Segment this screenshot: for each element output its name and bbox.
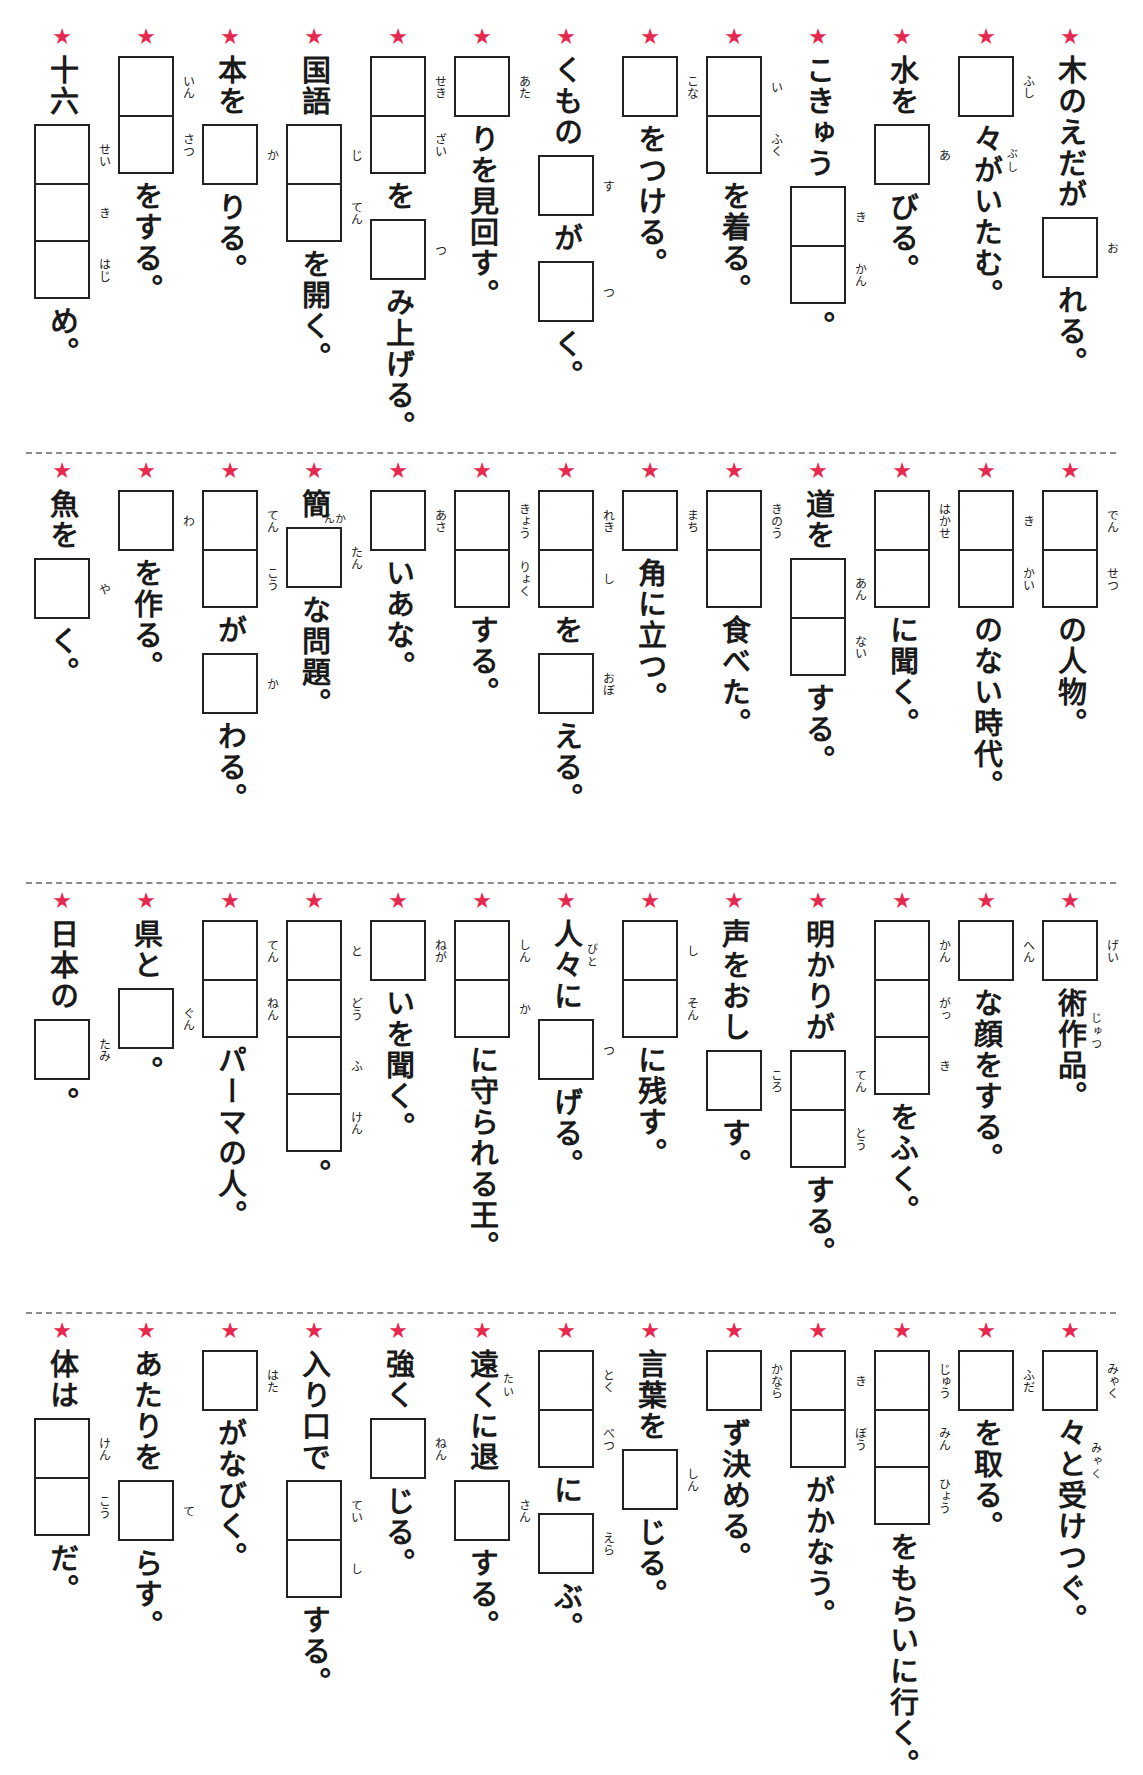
answer-cell[interactable]: つ — [540, 1021, 592, 1078]
answer-box[interactable]: いんさつ — [118, 56, 174, 174]
answer-cell[interactable]: ふだ — [960, 1352, 1012, 1409]
answer-cell[interactable]: さつ — [120, 115, 172, 172]
answer-cell[interactable]: ふ — [288, 1036, 340, 1093]
answer-cell[interactable]: せつ — [1044, 549, 1096, 606]
answer-box[interactable]: つ — [370, 219, 426, 280]
answer-cell[interactable]: す — [540, 157, 592, 214]
answer-cell[interactable]: てん — [792, 1052, 844, 1109]
answer-cell[interactable]: ふし — [960, 58, 1012, 115]
answer-cell[interactable]: てん — [288, 183, 340, 240]
answer-cell[interactable]: れき — [540, 492, 592, 549]
answer-box[interactable]: あさ — [370, 490, 426, 551]
answer-box[interactable]: へん — [958, 920, 1014, 981]
answer-box[interactable]: や — [34, 558, 90, 619]
answer-cell[interactable]: し — [540, 549, 592, 606]
answer-cell[interactable]: し — [624, 922, 676, 979]
answer-cell[interactable]: ない — [792, 617, 844, 674]
answer-box[interactable]: いふく — [706, 56, 762, 174]
answer-box[interactable]: てんこう — [202, 490, 258, 608]
answer-box[interactable]: せきざい — [370, 56, 426, 174]
answer-box[interactable]: せいきはじ — [34, 124, 90, 299]
answer-cell[interactable]: どう — [288, 979, 340, 1036]
answer-box[interactable]: かんがっき — [874, 920, 930, 1095]
answer-cell[interactable]: けん — [288, 1093, 340, 1150]
answer-cell[interactable]: い — [708, 58, 760, 115]
answer-box[interactable]: まち — [622, 490, 678, 551]
answer-box[interactable]: さん — [454, 1480, 510, 1541]
answer-box[interactable]: ころ — [706, 1050, 762, 1111]
answer-cell[interactable]: おぼ — [540, 655, 592, 712]
answer-box[interactable]: あんない — [790, 558, 846, 676]
answer-cell[interactable]: さん — [456, 1482, 508, 1539]
answer-cell[interactable]: あた — [456, 58, 508, 115]
answer-cell[interactable]: けん — [36, 1420, 88, 1477]
answer-cell[interactable]: あさ — [372, 492, 424, 549]
answer-cell[interactable]: ふく — [708, 115, 760, 172]
answer-cell[interactable]: きのう — [708, 492, 760, 549]
answer-box[interactable]: とどうふけん — [286, 920, 342, 1152]
answer-box[interactable]: しん — [622, 1449, 678, 1510]
answer-box[interactable]: とくべつ — [538, 1350, 594, 1468]
answer-cell[interactable]: つ — [372, 221, 424, 278]
answer-box[interactable]: ふだ — [958, 1350, 1014, 1411]
answer-box[interactable]: しんか — [454, 920, 510, 1038]
answer-box[interactable]: ねが — [370, 920, 426, 981]
answer-cell[interactable]: はかせ — [876, 492, 928, 549]
answer-box[interactable]: えら — [538, 1513, 594, 1574]
answer-box[interactable]: つ — [538, 1019, 594, 1080]
answer-cell[interactable]: えら — [540, 1515, 592, 1572]
answer-box[interactable]: げい — [1042, 920, 1098, 981]
answer-cell[interactable]: き — [792, 188, 844, 245]
answer-cell[interactable]: たみ — [36, 1021, 88, 1078]
answer-box[interactable]: きかん — [790, 186, 846, 304]
answer-box[interactable]: おぼ — [538, 653, 594, 714]
answer-box[interactable]: れきし — [538, 490, 594, 608]
answer-cell[interactable]: ひょう — [876, 1466, 928, 1523]
answer-cell[interactable]: ねん — [372, 1420, 424, 1477]
answer-cell[interactable]: いん — [120, 58, 172, 115]
answer-cell[interactable]: かん — [792, 245, 844, 302]
answer-cell[interactable]: あ — [876, 126, 928, 183]
answer-cell[interactable]: てい — [288, 1482, 340, 1539]
answer-cell[interactable]: ざい — [372, 115, 424, 172]
answer-box[interactable]: きかい — [958, 490, 1014, 608]
answer-box[interactable]: きょうりょく — [454, 490, 510, 608]
answer-cell[interactable]: き — [960, 492, 1012, 549]
answer-cell[interactable]: こう — [204, 549, 256, 606]
answer-cell[interactable]: とう — [792, 1109, 844, 1166]
answer-cell[interactable]: まち — [624, 492, 676, 549]
answer-cell[interactable]: つ — [540, 263, 592, 320]
answer-cell[interactable]: げい — [1044, 922, 1096, 979]
answer-cell[interactable]: でん — [1044, 492, 1096, 549]
answer-cell[interactable]: ぐん — [120, 990, 172, 1047]
answer-cell[interactable]: ころ — [708, 1052, 760, 1109]
answer-cell[interactable]: はじ — [36, 240, 88, 297]
answer-box[interactable]: こな — [622, 56, 678, 117]
answer-cell[interactable]: お — [1044, 219, 1096, 276]
answer-box[interactable]: か — [202, 124, 258, 185]
answer-box[interactable]: ぐん — [118, 988, 174, 1049]
answer-cell[interactable]: じ — [288, 126, 340, 183]
answer-cell[interactable]: ねが — [372, 922, 424, 979]
answer-box[interactable]: たん — [286, 527, 342, 588]
answer-cell[interactable]: ねん — [204, 979, 256, 1036]
answer-cell[interactable]: こう — [36, 1477, 88, 1534]
answer-cell[interactable] — [876, 549, 928, 606]
answer-box[interactable]: わ — [118, 490, 174, 551]
answer-box[interactable]: じゅうみんひょう — [874, 1350, 930, 1525]
answer-cell[interactable]: てん — [204, 492, 256, 549]
answer-cell[interactable]: しん — [624, 1451, 676, 1508]
answer-box[interactable]: あた — [454, 56, 510, 117]
answer-cell[interactable]: き — [36, 183, 88, 240]
answer-cell[interactable]: みん — [876, 1409, 928, 1466]
answer-cell[interactable]: せい — [36, 126, 88, 183]
answer-cell[interactable]: や — [36, 560, 88, 617]
answer-cell[interactable]: べつ — [540, 1409, 592, 1466]
answer-box[interactable]: ねん — [370, 1418, 426, 1479]
answer-box[interactable]: みゃく — [1042, 1350, 1098, 1411]
answer-cell[interactable]: わ — [120, 492, 172, 549]
answer-cell[interactable]: てん — [204, 922, 256, 979]
answer-cell[interactable]: そん — [624, 979, 676, 1036]
answer-box[interactable]: ふし — [958, 56, 1014, 117]
answer-box[interactable]: きぼう — [790, 1350, 846, 1468]
